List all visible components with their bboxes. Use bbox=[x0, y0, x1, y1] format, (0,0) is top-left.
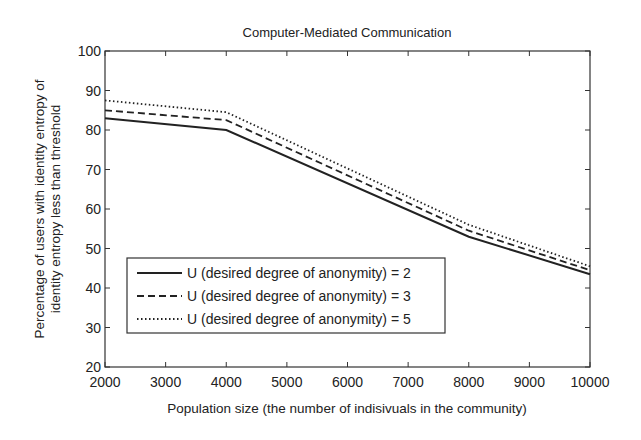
y-tick-label: 50 bbox=[85, 241, 101, 257]
x-tick-label: 2000 bbox=[89, 374, 120, 390]
series-line-solid bbox=[105, 118, 590, 274]
plot-axes: 2000300040005000600070008000900010000203… bbox=[78, 43, 610, 390]
data-series bbox=[105, 100, 590, 274]
y-tick-label: 100 bbox=[78, 43, 102, 59]
legend-entry: U (desired degree of anonymity) = 5 bbox=[187, 311, 411, 327]
y-tick-label: 70 bbox=[85, 162, 101, 178]
y-tick-label: 20 bbox=[85, 359, 101, 375]
y-axis-label-line2: identity entropy less than threshold bbox=[48, 105, 63, 314]
legend-entry: U (desired degree of anonymity) = 2 bbox=[187, 265, 411, 281]
y-tick-label: 30 bbox=[85, 320, 101, 336]
y-tick-label: 40 bbox=[85, 280, 101, 296]
x-tick-label: 10000 bbox=[571, 374, 610, 390]
y-tick-label: 60 bbox=[85, 201, 101, 217]
x-tick-label: 8000 bbox=[453, 374, 484, 390]
x-tick-label: 5000 bbox=[271, 374, 302, 390]
line-chart: Computer-Mediated Communication Percenta… bbox=[0, 0, 641, 440]
chart-title: Computer-Mediated Communication bbox=[243, 25, 452, 40]
y-tick-label: 80 bbox=[85, 122, 101, 138]
y-axis-label-line1: Percentage of users with identity entrop… bbox=[32, 79, 47, 338]
x-tick-label: 7000 bbox=[393, 374, 424, 390]
x-tick-label: 4000 bbox=[211, 374, 242, 390]
legend: U (desired degree of anonymity) = 2U (de… bbox=[127, 258, 445, 333]
y-axis-label: Percentage of users with identity entrop… bbox=[32, 79, 63, 338]
x-tick-label: 9000 bbox=[514, 374, 545, 390]
legend-entry: U (desired degree of anonymity) = 3 bbox=[187, 288, 411, 304]
series-line-dashed bbox=[105, 110, 590, 270]
x-tick-label: 3000 bbox=[150, 374, 181, 390]
x-tick-label: 6000 bbox=[332, 374, 363, 390]
y-tick-label: 90 bbox=[85, 83, 101, 99]
x-axis-label: Population size (the number of indisivua… bbox=[167, 401, 526, 416]
